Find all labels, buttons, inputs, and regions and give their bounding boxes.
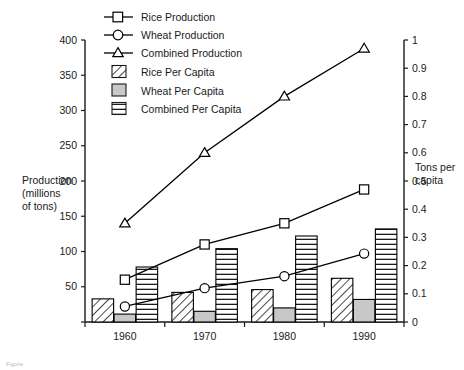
y-axis-tick-label: 350 bbox=[59, 69, 77, 81]
legend-label: Combined Production bbox=[141, 47, 242, 59]
production-per-capita-combo-chart: Rice Production Wheat Production Combine… bbox=[0, 0, 464, 370]
legend-label: Rice Per Capita bbox=[141, 66, 215, 78]
y-axis-tick-label: 100 bbox=[59, 245, 77, 257]
swatch-solid-gray-icon bbox=[112, 84, 126, 96]
bar-rice-per-capita-1980 bbox=[252, 290, 274, 322]
data-point-1960 bbox=[120, 275, 129, 284]
y2-axis-tick-label: 0.2 bbox=[412, 259, 427, 271]
bar-rice-per-capita-1990 bbox=[331, 278, 353, 322]
y2-axis-tick-label: 0.7 bbox=[412, 118, 427, 130]
legend-item-rice-production: Rice Production bbox=[104, 11, 215, 23]
legend-label: Combined Per Capita bbox=[141, 103, 242, 115]
bar-combined-per-capita-1990 bbox=[375, 229, 397, 322]
y2-axis-tick-label: 0.1 bbox=[412, 287, 427, 299]
x-axis-tick-label: 1980 bbox=[273, 330, 297, 342]
y-axis-tick-label: 50 bbox=[65, 280, 77, 292]
y2-axis-tick-label: 0.3 bbox=[412, 231, 427, 243]
chart-figure: Rice Production Wheat Production Combine… bbox=[0, 0, 464, 370]
x-axis-tick-label: 1960 bbox=[113, 330, 137, 342]
data-point-1990 bbox=[360, 249, 369, 258]
y-axis-tick-label: 400 bbox=[59, 34, 77, 46]
bar-wheat-per-capita-1970 bbox=[194, 311, 216, 322]
bar-rice-per-capita-1960 bbox=[92, 299, 114, 322]
bar-rice-per-capita-1970 bbox=[172, 292, 194, 322]
y-axis-tick-label: 150 bbox=[59, 210, 77, 222]
y-axis-tick-label: 250 bbox=[59, 139, 77, 151]
y2-axis-tick-label: 0.6 bbox=[412, 146, 427, 158]
bar-wheat-per-capita-1960 bbox=[114, 314, 136, 322]
bar-wheat-per-capita-1990 bbox=[353, 299, 375, 322]
data-point-1980 bbox=[280, 219, 289, 228]
y2-axis-tick-label: 0 bbox=[412, 316, 418, 328]
svg-text:Production: Production bbox=[22, 174, 72, 186]
figure-caption: Figure bbox=[6, 361, 24, 367]
bar-wheat-per-capita-1980 bbox=[274, 308, 296, 322]
x-axis-tick-label: 1970 bbox=[193, 330, 217, 342]
svg-text:of tons): of tons) bbox=[22, 200, 57, 212]
legend-label: Rice Production bbox=[141, 11, 215, 23]
data-point-1980 bbox=[280, 272, 289, 281]
x-axis-tick-label: 1990 bbox=[352, 330, 376, 342]
y-axis-tick-label: 300 bbox=[59, 104, 77, 116]
y2-axis-tick-label: 0.8 bbox=[412, 90, 427, 102]
swatch-horizontal-stripe-icon bbox=[112, 103, 126, 115]
legend-label: Wheat Production bbox=[141, 29, 225, 41]
bar-combined-per-capita-1980 bbox=[296, 236, 318, 322]
swatch-diagonal-hatch-icon bbox=[112, 66, 126, 78]
svg-text:Tons per: Tons per bbox=[415, 161, 456, 173]
bar-combined-per-capita-1960 bbox=[136, 267, 158, 322]
svg-text:capita: capita bbox=[415, 174, 443, 186]
legend-label: Wheat Per Capita bbox=[141, 85, 224, 97]
data-point-1970 bbox=[200, 284, 209, 293]
y2-axis-tick-label: 1 bbox=[412, 34, 418, 46]
y2-axis-tick-label: 0.4 bbox=[412, 203, 427, 215]
data-point-1990 bbox=[360, 185, 369, 194]
svg-text:(millions: (millions bbox=[22, 187, 61, 199]
y2-axis-tick-label: 0.9 bbox=[412, 62, 427, 74]
data-point-1970 bbox=[200, 240, 209, 249]
data-point-1960 bbox=[120, 302, 129, 311]
